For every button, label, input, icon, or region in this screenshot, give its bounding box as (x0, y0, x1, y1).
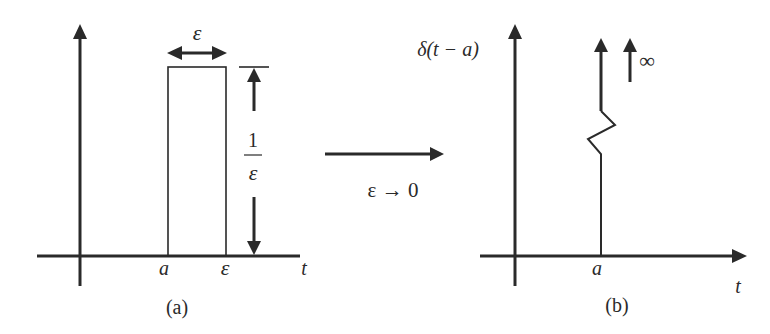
arrow-up-icon (594, 38, 608, 52)
caption-a: (a) (166, 296, 188, 319)
arrow-right-icon (430, 147, 444, 161)
transition: ε → 0 (325, 147, 444, 202)
arrow-up-icon (623, 38, 637, 52)
panel-b-y-axis (508, 24, 522, 286)
arrow-up-icon (508, 24, 522, 39)
height-label-numerator: 1 (248, 129, 258, 151)
panel-b: ∞ δ(t − a) a t (b) (417, 24, 747, 317)
panel-b-x-axis (480, 249, 747, 263)
tick-label-a: a (159, 257, 169, 279)
width-dimension-arrow (167, 46, 227, 60)
transition-label: ε → 0 (368, 178, 419, 202)
infinity-arrow (623, 38, 637, 82)
caption-b: (b) (605, 294, 628, 317)
delta-function-label: δ(t − a) (417, 38, 479, 61)
arrow-up-icon (73, 24, 87, 39)
x-axis-label-t-a: t (301, 257, 307, 279)
rectangular-pulse (168, 67, 226, 256)
width-label: ε (193, 20, 202, 45)
tick-label-epsilon: ε (221, 255, 230, 280)
panel-a-y-axis (73, 24, 87, 286)
height-label-denominator: ε (249, 160, 258, 185)
tick-label-a: a (592, 257, 602, 279)
impulse-spike (588, 38, 615, 256)
panel-a: ε 1 ε a ε t (a) (37, 20, 307, 319)
delta-function-diagram: ε 1 ε a ε t (a) ε → 0 (0, 0, 770, 334)
x-axis-label-t-b: t (735, 275, 741, 297)
arrow-right-icon (732, 249, 747, 263)
infinity-label: ∞ (639, 48, 655, 73)
